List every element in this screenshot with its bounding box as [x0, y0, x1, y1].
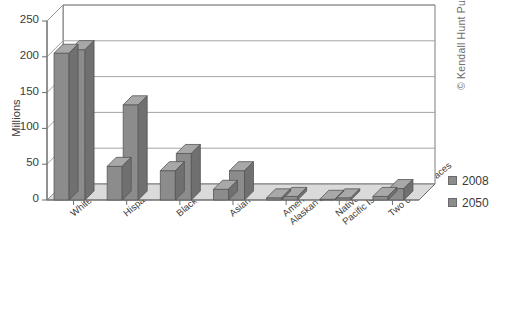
legend-item[interactable]: 2050 — [448, 194, 510, 211]
legend-swatch-icon — [448, 176, 457, 185]
bar-group — [54, 41, 94, 200]
plot-area — [0, 0, 514, 309]
legend-label: 2008 — [462, 174, 489, 188]
legend-label: 2050 — [462, 196, 489, 210]
copyright-credit: © Kendall Hunt Publishing Company — [455, 0, 467, 90]
figure-3d-bar-chart: Millions 050100150200250 WhiteHispanicBl… — [0, 0, 514, 309]
legend-swatch-icon — [448, 198, 457, 207]
legend-item[interactable]: 2008 — [448, 172, 510, 189]
chart-legend: 20082050 — [448, 172, 510, 216]
